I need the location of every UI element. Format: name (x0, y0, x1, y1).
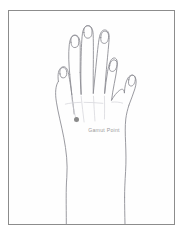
gamut-point-label: Gamut Point (59, 127, 149, 134)
hand-outline-illustration (9, 11, 174, 224)
gamut-point-marker-dot (74, 117, 79, 122)
figure-frame: Gamut Point (8, 10, 175, 225)
figure-top-caption (0, 0, 183, 4)
